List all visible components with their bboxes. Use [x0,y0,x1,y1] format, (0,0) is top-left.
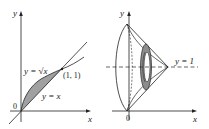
rotation-axis-label: y = 1 [174,56,194,66]
intersection-label: (1, 1) [63,71,81,80]
x-axis-arrow-icon [86,109,91,113]
y-axis-arrow-icon [19,11,23,16]
intersection-point [61,68,63,70]
right-origin-label: 0 [126,114,130,123]
left-y-axis-label: y [12,8,17,18]
right-x-axis-arrow-icon [192,109,197,113]
solid-base-ellipse-back [127,24,132,111]
solid-base-ellipse-front [116,24,127,111]
left-figure: y x 0 y = √x y = x (1, 1) [9,8,92,124]
sqrt-curve-label: y = √x [23,66,48,76]
right-y-axis-label: y [119,8,124,18]
right-figure: y = 1 y x 0 [106,8,198,124]
right-x-axis-label: x [192,114,197,124]
right-y-axis-arrow-icon [127,11,131,16]
left-origin-label: 0 [13,102,17,111]
line-label: y = x [41,91,61,101]
figure-canvas: y x 0 y = √x y = x (1, 1) y = 1 y x 0 [0,0,209,129]
left-x-axis-label: x [87,114,92,124]
